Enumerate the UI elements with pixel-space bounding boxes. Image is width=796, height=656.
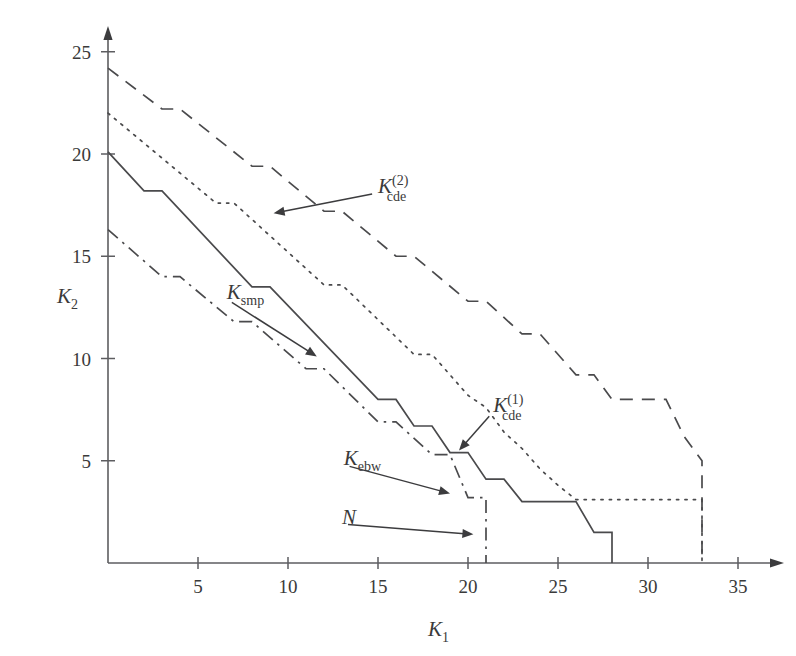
label-sub: cde: [387, 189, 406, 204]
y-axis-label: K2: [56, 284, 78, 312]
label-sup: (1): [507, 392, 524, 408]
figure-container: 5101520253035 510152025 K(2)cdeK(1)cdeKs…: [0, 0, 796, 656]
annotation-leader-group: [232, 194, 489, 538]
label-sup: (2): [392, 173, 409, 189]
x-tick-label: 35: [729, 576, 748, 597]
x-tick-label: 25: [549, 576, 568, 597]
leader-n: [348, 525, 464, 534]
label-k-smp: Ksmp: [226, 280, 264, 308]
y-tick-label: 15: [72, 246, 91, 267]
y-tick-label: 20: [72, 144, 91, 165]
label-k-ebw: Kebw: [343, 446, 382, 474]
label-main: N: [341, 505, 357, 529]
label-main: K: [343, 446, 359, 470]
label-n: N: [341, 505, 357, 529]
label-main: K: [226, 280, 242, 304]
label-sub: cde: [502, 408, 521, 423]
label-sub: smp: [241, 293, 264, 308]
y-tick-label: 5: [82, 451, 92, 472]
x-tick-label: 30: [639, 576, 658, 597]
x-tick-label: 5: [193, 576, 203, 597]
x-tick-label: 20: [459, 576, 478, 597]
label-k-cde-2-: K(2)cde: [377, 173, 409, 204]
axes-group: [103, 26, 784, 568]
arrowhead-n: [462, 529, 473, 538]
curve-k-ebw: [108, 230, 486, 563]
leader-k-smp: [232, 302, 309, 351]
x-tick-label: 10: [279, 576, 298, 597]
curve-k-cde-2-: [108, 68, 702, 563]
y-tick-label: 10: [72, 349, 91, 370]
y-axis-label-main: K: [56, 284, 72, 308]
y-axis-arrowhead: [103, 26, 112, 40]
x-axis-label: K1: [427, 617, 449, 645]
k1-k2-tradeoff-chart: 5101520253035 510152025 K(2)cdeK(1)cdeKs…: [0, 0, 796, 656]
y-axis-label-sub: 2: [71, 297, 78, 312]
arrowhead-k-cde-2-: [274, 207, 286, 216]
label-sub: ebw: [358, 459, 382, 474]
leader-k-cde-1-: [465, 416, 489, 444]
x-axis-arrowhead: [770, 558, 784, 567]
label-k-cde-1-: K(1)cde: [492, 392, 524, 423]
y-tick-label: 25: [72, 42, 91, 63]
x-axis-label-sub: 1: [442, 630, 449, 645]
leader-k-cde-2-: [282, 194, 372, 212]
curve-k-smp: [108, 152, 612, 563]
x-axis-label-main: K: [427, 617, 443, 641]
curve-group: [108, 68, 702, 563]
x-tick-label: 15: [369, 576, 388, 597]
annotation-label-group: K(2)cdeK(1)cdeKsmpKebwN: [226, 173, 524, 529]
arrowhead-k-smp: [305, 347, 317, 357]
arrowhead-k-ebw: [438, 486, 450, 495]
